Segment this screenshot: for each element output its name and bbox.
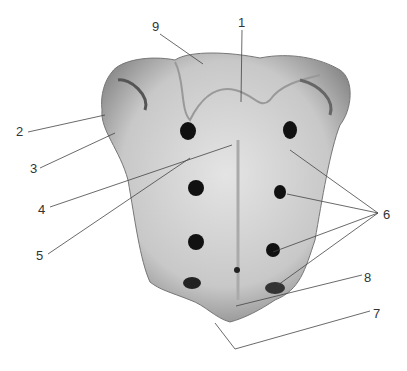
sacrum-bone [102,53,351,322]
label-4: 4 [38,203,45,216]
label-5: 5 [36,249,43,262]
foramen [183,277,201,289]
foramen [274,185,286,199]
label-7: 7 [373,307,380,320]
label-1: 1 [238,16,245,29]
label-6: 6 [383,208,390,221]
label-3: 3 [30,162,37,175]
foramen [180,122,196,140]
foramen [265,282,285,294]
label-2: 2 [16,125,23,138]
foramen [188,234,204,250]
sacrum-illustration [0,0,407,371]
foramen [188,180,204,196]
foramen [283,121,297,139]
label-9: 9 [152,20,159,33]
label-8: 8 [364,271,371,284]
